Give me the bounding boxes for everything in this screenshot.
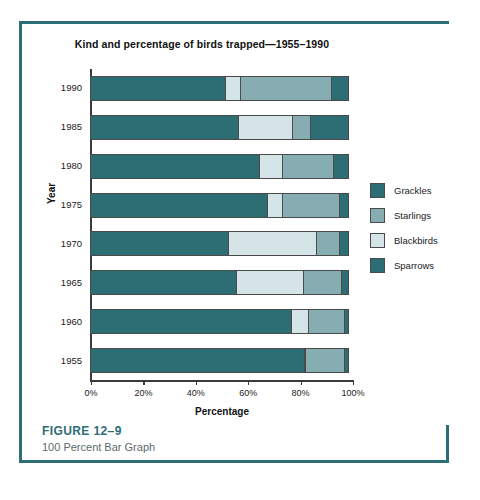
- legend-swatch: [370, 258, 385, 273]
- bar-segment[interactable]: [90, 115, 239, 140]
- bar-segment[interactable]: [267, 193, 283, 218]
- bar-segment[interactable]: [90, 270, 237, 295]
- y-tick-label: 1975: [61, 200, 82, 210]
- bar-segment[interactable]: [303, 270, 342, 295]
- bar-segment[interactable]: [291, 309, 309, 334]
- chart-title: Kind and percentage of birds trapped—195…: [22, 38, 382, 50]
- bar-row[interactable]: 1975: [91, 193, 353, 218]
- x-tick-label: 80%: [292, 388, 310, 398]
- y-tick-label: 1985: [61, 122, 82, 132]
- legend-item[interactable]: Grackles: [370, 178, 480, 203]
- x-tick-mark: [196, 380, 197, 385]
- bar-segment[interactable]: [90, 309, 292, 334]
- plot-area: 0%20%40%60%80%100% 199019851980197519701…: [91, 69, 353, 380]
- y-axis-title: Year: [46, 183, 57, 204]
- legend-swatch: [370, 233, 385, 248]
- bar-segment[interactable]: [331, 76, 349, 101]
- bar-row[interactable]: 1955: [91, 348, 353, 373]
- bar-segment[interactable]: [316, 231, 340, 256]
- bar-segment[interactable]: [90, 76, 226, 101]
- y-tick-label: 1965: [61, 278, 82, 288]
- bar-row[interactable]: 1990: [91, 76, 353, 101]
- legend-swatch: [370, 208, 385, 223]
- bar-segment[interactable]: [90, 231, 229, 256]
- bar-row[interactable]: 1985: [91, 115, 353, 140]
- figure-caption-block: FIGURE 12–9 100 Percent Bar Graph: [42, 424, 422, 453]
- legend-swatch: [370, 183, 385, 198]
- bar-row[interactable]: 1960: [91, 309, 353, 334]
- x-tick-mark: [248, 380, 249, 385]
- bar-segment[interactable]: [259, 154, 283, 179]
- chart-panel: Kind and percentage of birds trapped—195…: [22, 24, 446, 414]
- y-tick-label: 1980: [61, 161, 82, 171]
- legend-item[interactable]: Sparrows: [370, 253, 480, 278]
- chart-legend: GracklesStarlingsBlackbirdsSparrows: [370, 178, 480, 278]
- y-tick-label: 1960: [61, 317, 82, 327]
- bar-segment[interactable]: [339, 193, 349, 218]
- bar-row[interactable]: 1965: [91, 270, 353, 295]
- legend-label: Blackbirds: [394, 235, 438, 246]
- bar-row[interactable]: 1970: [91, 231, 353, 256]
- bar-segment[interactable]: [344, 309, 349, 334]
- bar-segment[interactable]: [344, 348, 349, 373]
- bar-segment[interactable]: [90, 193, 268, 218]
- legend-item[interactable]: Starlings: [370, 203, 480, 228]
- bar-segment[interactable]: [310, 115, 349, 140]
- x-tick-mark: [91, 380, 92, 385]
- x-tick-label: 20%: [134, 388, 152, 398]
- bar-segment[interactable]: [240, 76, 332, 101]
- page-rule-right: [446, 425, 449, 463]
- bar-segment[interactable]: [225, 76, 241, 101]
- bar-segment[interactable]: [282, 154, 334, 179]
- bar-segment[interactable]: [236, 270, 304, 295]
- bar-segment[interactable]: [333, 154, 349, 179]
- x-tick-mark: [353, 380, 354, 385]
- y-tick-label: 1970: [61, 239, 82, 249]
- bar-segment[interactable]: [228, 231, 317, 256]
- bar-segment[interactable]: [90, 348, 305, 373]
- page-rule-bottom: [19, 460, 449, 463]
- bar-segment[interactable]: [282, 193, 340, 218]
- bar-segment[interactable]: [341, 270, 349, 295]
- x-axis-line: [90, 380, 353, 382]
- bar-segment[interactable]: [238, 115, 293, 140]
- figure-title: 100 Percent Bar Graph: [42, 441, 422, 453]
- bar-segment[interactable]: [305, 348, 344, 373]
- legend-item[interactable]: Blackbirds: [370, 228, 480, 253]
- bar-row[interactable]: 1980: [91, 154, 353, 179]
- x-tick-label: 60%: [239, 388, 257, 398]
- legend-label: Sparrows: [394, 260, 434, 271]
- y-tick-label: 1955: [61, 356, 82, 366]
- x-axis-title: Percentage: [91, 406, 353, 417]
- bar-segment[interactable]: [308, 309, 345, 334]
- x-tick-mark: [301, 380, 302, 385]
- x-tick-label: 0%: [84, 388, 97, 398]
- legend-label: Starlings: [394, 210, 431, 221]
- y-tick-label: 1990: [61, 83, 82, 93]
- figure-number: FIGURE 12–9: [42, 424, 422, 438]
- x-tick-label: 100%: [341, 388, 364, 398]
- x-tick-mark: [143, 380, 144, 385]
- legend-label: Grackles: [394, 185, 431, 196]
- bar-segment[interactable]: [90, 154, 260, 179]
- bar-segment[interactable]: [339, 231, 349, 256]
- bar-segment[interactable]: [292, 115, 310, 140]
- x-tick-label: 40%: [187, 388, 205, 398]
